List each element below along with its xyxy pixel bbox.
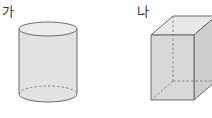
- cylinder-figure: [19, 22, 77, 102]
- shapes-diagram: [0, 0, 212, 118]
- cube-figure: [151, 16, 212, 100]
